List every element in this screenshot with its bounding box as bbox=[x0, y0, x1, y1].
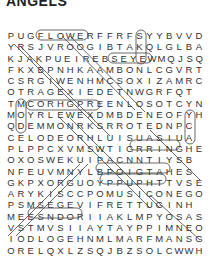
grid-cell[interactable]: H bbox=[144, 177, 154, 188]
grid-cell[interactable]: U bbox=[36, 166, 46, 177]
grid-cell[interactable]: E bbox=[55, 154, 65, 165]
grid-cell[interactable]: V bbox=[46, 41, 56, 52]
grid-cell[interactable]: M bbox=[135, 211, 145, 222]
grid-cell[interactable]: O bbox=[26, 154, 36, 165]
grid-cell[interactable]: O bbox=[125, 75, 135, 86]
grid-cell[interactable]: G bbox=[46, 86, 56, 97]
grid-cell[interactable]: T bbox=[164, 177, 174, 188]
grid-cell[interactable]: A bbox=[105, 154, 115, 165]
grid-cell[interactable]: F bbox=[6, 64, 16, 75]
grid-cell[interactable]: F bbox=[105, 30, 115, 41]
grid-cell[interactable]: M bbox=[105, 109, 115, 120]
grid-cell[interactable]: A bbox=[125, 233, 135, 244]
grid-cell[interactable]: S bbox=[85, 143, 95, 154]
grid-cell[interactable]: G bbox=[85, 41, 95, 52]
grid-cell[interactable]: C bbox=[46, 143, 56, 154]
grid-cell[interactable]: W bbox=[184, 245, 194, 256]
grid-cell[interactable]: I bbox=[154, 154, 164, 165]
grid-cell[interactable]: P bbox=[46, 64, 56, 75]
grid-cell[interactable]: M bbox=[115, 233, 125, 244]
grid-cell[interactable]: K bbox=[34, 53, 43, 64]
grid-cell[interactable]: A bbox=[115, 222, 125, 233]
grid-cell[interactable]: A bbox=[125, 41, 135, 52]
grid-cell[interactable]: A bbox=[105, 211, 115, 222]
grid-cell[interactable]: V bbox=[6, 222, 16, 233]
grid-cell[interactable]: O bbox=[85, 177, 95, 188]
grid-cell[interactable]: S bbox=[36, 154, 46, 165]
grid-cell[interactable]: F bbox=[174, 109, 184, 120]
grid-cell[interactable]: O bbox=[46, 233, 56, 244]
grid-cell[interactable]: Y bbox=[164, 154, 174, 165]
grid-cell[interactable]: P bbox=[75, 98, 85, 109]
grid-cell[interactable]: U bbox=[105, 132, 115, 143]
grid-cell[interactable]: S bbox=[110, 53, 119, 64]
grid-cell[interactable]: B bbox=[105, 41, 115, 52]
grid-cell[interactable]: S bbox=[115, 75, 125, 86]
grid-cell[interactable]: D bbox=[125, 109, 135, 120]
grid-cell[interactable]: I bbox=[46, 188, 56, 199]
grid-cell[interactable]: Y bbox=[125, 222, 135, 233]
grid-cell[interactable]: A bbox=[164, 233, 174, 244]
grid-cell[interactable]: R bbox=[115, 120, 125, 131]
grid-cell[interactable]: X bbox=[55, 143, 65, 154]
grid-cell[interactable]: O bbox=[6, 86, 16, 97]
grid-cell[interactable]: E bbox=[16, 132, 26, 143]
grid-cell[interactable]: M bbox=[26, 199, 36, 210]
grid-cell[interactable]: Y bbox=[95, 222, 105, 233]
grid-cell[interactable]: P bbox=[6, 30, 16, 41]
grid-cell[interactable]: V bbox=[65, 143, 75, 154]
grid-cell[interactable]: O bbox=[164, 211, 174, 222]
grid-cell[interactable]: E bbox=[194, 177, 204, 188]
grid-cell[interactable]: H bbox=[85, 132, 95, 143]
grid-cell[interactable]: N bbox=[135, 64, 145, 75]
grid-cell[interactable]: M bbox=[95, 233, 105, 244]
grid-cell[interactable]: R bbox=[115, 30, 125, 41]
grid-cell[interactable]: E bbox=[26, 120, 36, 131]
grid-cell[interactable]: E bbox=[154, 109, 164, 120]
grid-cell[interactable]: R bbox=[184, 64, 194, 75]
grid-cell[interactable]: E bbox=[91, 53, 100, 64]
grid-cell[interactable]: E bbox=[105, 98, 115, 109]
grid-cell[interactable]: E bbox=[194, 143, 204, 154]
grid-cell[interactable]: S bbox=[174, 211, 184, 222]
grid-cell[interactable]: E bbox=[65, 233, 75, 244]
grid-cell[interactable]: S bbox=[125, 132, 135, 143]
grid-cell[interactable]: B bbox=[184, 154, 194, 165]
grid-cell[interactable]: U bbox=[174, 132, 184, 143]
grid-cell[interactable]: T bbox=[16, 86, 26, 97]
grid-cell[interactable]: U bbox=[75, 177, 85, 188]
grid-cell[interactable]: O bbox=[65, 211, 75, 222]
grid-cell[interactable]: W bbox=[174, 245, 184, 256]
grid-cell[interactable]: G bbox=[26, 30, 36, 41]
grid-cell[interactable]: L bbox=[46, 30, 56, 41]
grid-cell[interactable]: C bbox=[164, 245, 174, 256]
grid-cell[interactable]: I bbox=[75, 222, 85, 233]
grid-cell[interactable]: N bbox=[135, 154, 145, 165]
grid-cell[interactable]: D bbox=[154, 120, 164, 131]
grid-cell[interactable]: S bbox=[16, 222, 26, 233]
grid-cell[interactable]: M bbox=[6, 109, 16, 120]
grid-cell[interactable]: N bbox=[125, 86, 135, 97]
grid-cell[interactable]: N bbox=[115, 98, 125, 109]
grid-cell[interactable]: N bbox=[65, 120, 75, 131]
grid-cell[interactable]: P bbox=[144, 222, 154, 233]
grid-cell[interactable]: G bbox=[36, 75, 46, 86]
grid-cell[interactable]: S bbox=[144, 98, 154, 109]
grid-cell[interactable]: Y bbox=[154, 30, 164, 41]
grid-cell[interactable]: M bbox=[6, 211, 16, 222]
grid-cell[interactable]: G bbox=[154, 199, 164, 210]
grid-cell[interactable]: S bbox=[185, 53, 194, 64]
grid-cell[interactable]: C bbox=[6, 75, 16, 86]
grid-cell[interactable]: N bbox=[164, 143, 174, 154]
grid-cell[interactable]: E bbox=[55, 132, 65, 143]
grid-cell[interactable]: O bbox=[194, 188, 204, 199]
grid-cell[interactable]: C bbox=[105, 75, 115, 86]
grid-cell[interactable]: Q bbox=[174, 86, 184, 97]
grid-cell[interactable]: N bbox=[125, 154, 135, 165]
grid-cell[interactable]: A bbox=[25, 53, 34, 64]
grid-cell[interactable]: N bbox=[65, 166, 75, 177]
grid-cell[interactable]: P bbox=[85, 188, 95, 199]
grid-cell[interactable]: L bbox=[154, 41, 164, 52]
grid-cell[interactable]: F bbox=[36, 30, 46, 41]
grid-cell[interactable]: J bbox=[15, 53, 24, 64]
